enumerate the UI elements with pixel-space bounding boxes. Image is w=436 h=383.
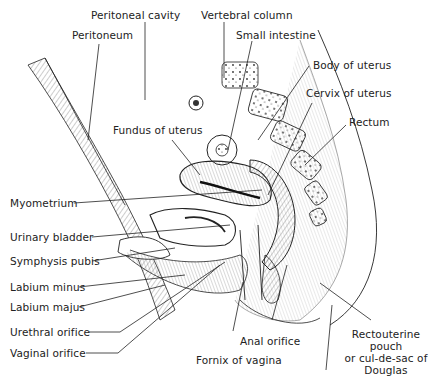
urinary-bladder: [150, 209, 236, 247]
label-fornix-of-vagina: Fornix of vagina: [196, 354, 282, 366]
label-rectouterine-pouch: Rectouterine pouch or cul-de-sac of Doug…: [336, 328, 436, 376]
label-fundus-of-uterus: Fundus of uterus: [113, 124, 203, 136]
label-urinary-bladder: Urinary bladder: [10, 231, 94, 243]
label-vertebral-column: Vertebral column: [201, 9, 293, 21]
label-rectouterine-pouch-line1: Rectouterine pouch: [336, 328, 436, 352]
label-rectouterine-pouch-line2: or cul-de-sac of: [336, 352, 436, 364]
label-anal-orifice: Anal orifice: [240, 335, 300, 347]
label-small-intestine: Small intestine: [236, 29, 316, 41]
label-labium-majus: Labium majus: [10, 301, 85, 313]
label-symphysis-pubis: Symphysis pubis: [10, 255, 100, 267]
label-myometrium: Myometrium: [10, 197, 78, 209]
label-vaginal-orifice: Vaginal orifice: [10, 347, 86, 359]
label-body-of-uterus: Body of uterus: [313, 59, 391, 71]
label-urethral-orifice: Urethral orifice: [10, 326, 90, 338]
label-rectouterine-pouch-line3: Douglas: [336, 364, 436, 376]
label-peritoneal-cavity: Peritoneal cavity: [91, 9, 180, 21]
label-cervix-of-uterus: Cervix of uterus: [306, 87, 392, 99]
label-labium-minus: Labium minus: [10, 281, 85, 293]
label-peritoneum: Peritoneum: [72, 29, 133, 41]
label-rectum: Rectum: [349, 116, 390, 128]
